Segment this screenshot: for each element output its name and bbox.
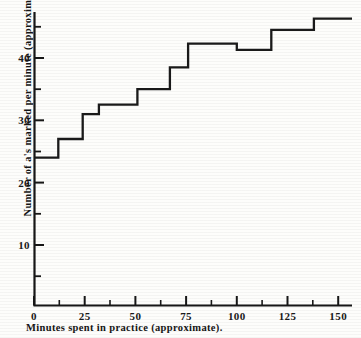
x-tick-label-75: 75 <box>180 310 192 322</box>
x-tick-label-0: 0 <box>31 310 37 322</box>
x-tick-label-25: 25 <box>79 310 91 322</box>
chart-figure: 0 25 50 75 100 125 150 10 20 30 40 Minut… <box>0 0 361 338</box>
x-axis-major-ticks <box>34 296 338 305</box>
y-axis-title: Number of a's marked per minute (approxi… <box>22 0 33 217</box>
step-chart-plot <box>0 0 361 338</box>
x-axis-title: Minutes spent in practice (approximate). <box>26 322 223 333</box>
step-series-line <box>34 19 352 158</box>
x-tick-label-100: 100 <box>228 310 246 322</box>
y-tick-label-10: 10 <box>12 239 30 251</box>
x-tick-label-50: 50 <box>129 310 141 322</box>
x-tick-label-125: 125 <box>279 310 297 322</box>
x-tick-label-150: 150 <box>329 310 347 322</box>
